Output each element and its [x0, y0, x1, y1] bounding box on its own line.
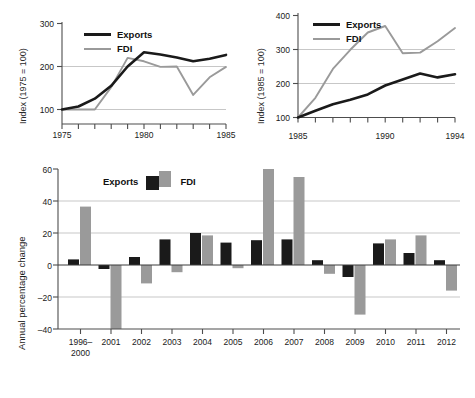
bar-fdi — [80, 207, 91, 265]
bar-exports — [221, 243, 232, 265]
bar-fdi — [202, 235, 213, 265]
bar-exports — [373, 243, 384, 265]
x-tick-group — [81, 329, 447, 334]
legend-swatch-fdi — [159, 171, 171, 187]
legend-swatch-exports — [146, 176, 159, 190]
series-line-exports — [298, 74, 455, 118]
bar-fdi — [416, 235, 427, 265]
legend-index-1985: Exports FDI — [313, 18, 381, 45]
legend-index-1975: Exports FDI — [84, 28, 152, 55]
chart-panel-annual-percentage-change: Annual percentage change 60 40 20 0 –20 … — [0, 150, 475, 398]
bar-exports — [68, 259, 79, 265]
legend-swatch-fdi-line — [313, 38, 340, 40]
bar-exports — [312, 260, 323, 265]
bar-fdi — [263, 169, 274, 265]
chart-panel-index-1975: Index (1975 = 100) 300 200 100 1975 1980… — [0, 0, 240, 150]
bar-plot-annual-percentage-change — [0, 150, 475, 398]
bar-fdi — [385, 239, 396, 265]
bar-fdi — [446, 265, 457, 291]
bar-exports — [99, 265, 110, 269]
legend-label-exports: Exports — [103, 176, 138, 187]
bar-exports — [129, 257, 140, 265]
bar-exports — [343, 265, 354, 277]
legend-annual-pct: Exports FDI — [103, 171, 196, 192]
legend-swatch-exports-line — [84, 33, 111, 36]
y-tick-group — [53, 169, 58, 329]
bar-exports — [434, 260, 445, 265]
legend-label-exports: Exports — [117, 29, 152, 40]
legend-label-exports: Exports — [346, 19, 381, 30]
legend-item-fdi: FDI — [84, 42, 152, 55]
bar-exports — [160, 239, 171, 265]
x-tick-group — [298, 118, 455, 123]
line-plot-index-1975 — [0, 0, 240, 150]
legend-item-exports: Exports — [84, 28, 152, 41]
bar-fdi — [324, 265, 335, 274]
legend-label-fdi: FDI — [346, 33, 361, 44]
x-tick-group — [62, 124, 226, 129]
bar-exports — [404, 253, 415, 265]
legend-label-fdi: FDI — [117, 43, 132, 54]
bar-fdi — [172, 265, 183, 272]
bar-exports — [282, 239, 293, 265]
legend-swatch-fdi-line — [84, 48, 111, 50]
legend-swatch-exports-line — [313, 23, 340, 26]
figure-three-charts: Index (1975 = 100) 300 200 100 1975 1980… — [0, 0, 475, 398]
bar-exports — [251, 240, 262, 265]
chart-panel-index-1985: Index (1985 = 100) 400 300 200 100 1985 … — [240, 0, 475, 150]
x-tick-label: 2012 — [428, 337, 466, 348]
legend-label-fdi: FDI — [180, 176, 195, 187]
bar-exports — [190, 233, 201, 265]
bar-fdi — [294, 177, 305, 265]
bar-fdi — [141, 265, 152, 283]
bar-fdi — [355, 265, 366, 315]
legend-item-fdi: FDI — [313, 32, 381, 45]
bar-fdi — [111, 265, 122, 329]
legend-item-exports: Exports — [313, 18, 381, 31]
